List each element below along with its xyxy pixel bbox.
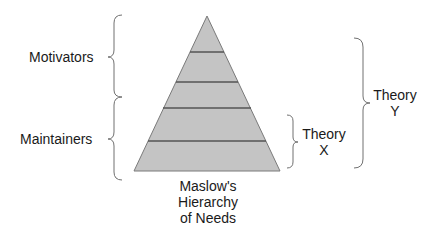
motivators-brace-icon [108, 15, 122, 97]
theory-y-label: Theory Y [368, 87, 422, 119]
maintainers-brace-icon [108, 97, 122, 180]
theory-x-label-line: X [297, 142, 351, 158]
pyramid-caption-line: of Needs [166, 210, 250, 226]
maintainers-label: Maintainers [20, 131, 92, 147]
pyramid-caption-line: Maslow's [166, 178, 250, 194]
theory-x-label-line: Theory [297, 126, 351, 142]
pyramid-caption-line: Hierarchy [166, 194, 250, 210]
maslow-pyramid [134, 16, 280, 171]
pyramid-caption: Maslow's Hierarchy of Needs [166, 178, 250, 226]
pyramid-shape [134, 16, 280, 171]
motivators-label: Motivators [29, 49, 94, 65]
theory-y-label-line: Y [368, 103, 422, 119]
theory-x-label: Theory X [297, 126, 351, 158]
theory-y-label-line: Theory [368, 87, 422, 103]
